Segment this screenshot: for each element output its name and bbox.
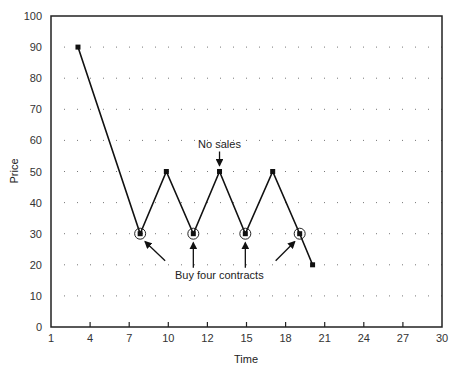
y-tick-label: 70 (30, 103, 42, 115)
x-tick-label: 27 (397, 332, 409, 344)
x-axis: 1471012151821242730 (48, 322, 448, 344)
buy-point-circles (135, 228, 306, 239)
y-tick-label: 80 (30, 72, 42, 84)
x-tick-label: 12 (201, 332, 213, 344)
y-tick-label: 60 (30, 134, 42, 146)
arrow-icon (276, 242, 295, 261)
data-point-marker (270, 169, 275, 174)
dotted-grid (64, 47, 442, 297)
line-chart: 1471012151821242730 01020304050607080901… (0, 0, 456, 373)
x-tick-label: 30 (436, 332, 448, 344)
data-point-marker (75, 45, 80, 50)
y-tick-label: 40 (30, 197, 42, 209)
buy-four-contracts-annotation: Buy four contracts (175, 269, 264, 281)
y-tick-label: 100 (24, 10, 42, 22)
x-tick-label: 4 (87, 332, 93, 344)
y-tick-label: 0 (36, 321, 42, 333)
y-tick-label: 10 (30, 290, 42, 302)
y-tick-label: 90 (30, 41, 42, 53)
data-point-marker (217, 169, 222, 174)
data-point-marker (310, 262, 315, 267)
x-tick-label: 18 (279, 332, 291, 344)
data-point-marker (138, 231, 143, 236)
data-point-markers (75, 45, 315, 268)
x-tick-label: 15 (240, 332, 252, 344)
y-tick-label: 20 (30, 259, 42, 271)
data-point-marker (164, 169, 169, 174)
data-point-marker (297, 231, 302, 236)
data-point-marker (243, 231, 248, 236)
x-axis-title: Time (234, 353, 258, 365)
y-tick-label: 30 (30, 228, 42, 240)
x-tick-label: 24 (358, 332, 370, 344)
data-point-marker (191, 231, 196, 236)
arrow-icon (145, 242, 165, 261)
x-tick-label: 10 (162, 332, 174, 344)
y-axis: 0102030405060708090100 (24, 10, 42, 333)
x-tick-label: 21 (319, 332, 331, 344)
x-tick-label: 7 (126, 332, 132, 344)
y-tick-label: 50 (30, 166, 42, 178)
annotation-arrows (145, 152, 295, 268)
no-sales-annotation: No sales (198, 138, 241, 150)
y-axis-title: Price (8, 158, 20, 183)
x-tick-label: 1 (48, 332, 54, 344)
